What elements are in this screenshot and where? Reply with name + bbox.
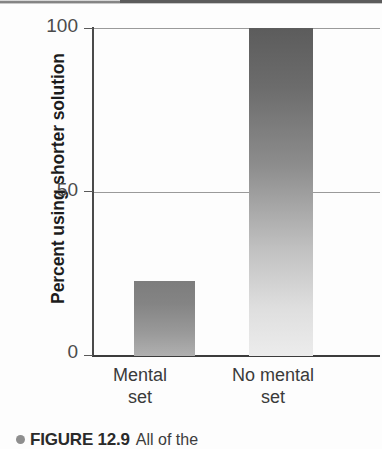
caption-figure-number: FIGURE 12.9 [30,430,130,449]
x-category-label-mental-set-line2: set [88,386,192,408]
y-tick-label-50: 50 [34,179,78,201]
x-category-label-no-mental-set-line2: set [212,386,334,408]
bars-layer [92,28,380,356]
bar-mental-set [134,281,195,356]
caption-bullet-icon [16,435,25,444]
scanned-page-background: Percent using shorter solution 100 50 0 … [0,0,382,449]
caption-body-text: All of the [136,431,198,448]
y-tick-label-0: 0 [34,341,78,363]
y-tick-label-100: 100 [34,15,78,37]
x-category-label-mental-set: Mental set [88,364,192,408]
bar-no-mental-set [249,28,313,356]
x-category-label-no-mental-set-line1: No mental [212,364,334,386]
x-category-label-no-mental-set: No mental set [212,364,334,408]
bar-chart-figure: Percent using shorter solution 100 50 0 … [0,0,382,449]
figure-caption: FIGURE 12.9All of the [16,430,382,449]
x-category-label-mental-set-line1: Mental [88,364,192,386]
